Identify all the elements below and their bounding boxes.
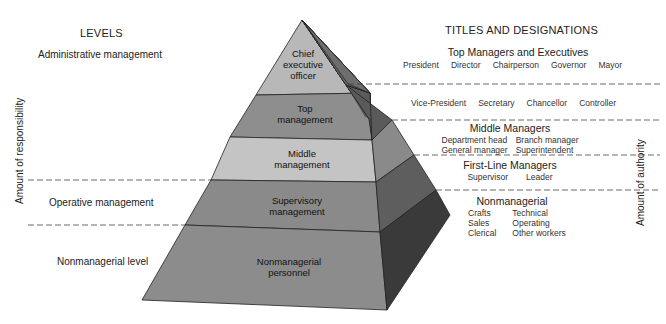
title-president: President bbox=[403, 60, 439, 70]
tier-label-supervisory-line2: management bbox=[252, 206, 342, 217]
group-nonmanagerial-name: Nonmanagerial bbox=[462, 195, 562, 207]
tier-label-middle-line1: Middle bbox=[262, 148, 342, 159]
title-operating: Operating bbox=[512, 218, 565, 228]
group-first-line-managers: First-Line Managers Supervisor Leader bbox=[460, 159, 560, 182]
tier-label-nonmanagerial: Nonmanagerial personnel bbox=[236, 256, 342, 278]
title-technical: Technical bbox=[512, 208, 565, 218]
title-leader: Leader bbox=[526, 172, 552, 182]
group-middle-managers-name: Middle Managers bbox=[440, 122, 580, 134]
title-vice-president: Vice-President bbox=[411, 98, 466, 108]
titles-header: TITLES AND DESIGNATIONS bbox=[445, 24, 598, 36]
tier-label-top-line1: Top bbox=[268, 103, 342, 114]
level-nonmanagerial: Nonmanagerial level bbox=[57, 256, 148, 267]
group-top-managers-name: Top Managers and Executives bbox=[403, 46, 633, 58]
group-nonmanagerial-titles: Crafts Technical Sales Operating Clerica… bbox=[462, 208, 562, 238]
title-clerical: Clerical bbox=[468, 228, 496, 238]
tier-label-ceo-line2: executive bbox=[278, 59, 328, 70]
tier-label-top: Top management bbox=[268, 103, 342, 125]
tier-label-middle-line2: management bbox=[262, 159, 342, 170]
tier-label-supervisory-line1: Supervisory bbox=[252, 195, 342, 206]
responsibility-axis-label: Amount of responsibility bbox=[14, 98, 25, 204]
title-superintendent: Superintendent bbox=[516, 145, 579, 155]
tier-label-top-line2: management bbox=[268, 114, 342, 125]
group-nonmanagerial: Nonmanagerial Crafts Technical Sales Ope… bbox=[462, 195, 562, 238]
level-operative: Operative management bbox=[49, 197, 154, 208]
title-supervisor: Supervisor bbox=[467, 172, 508, 182]
title-chairperson: Chairperson bbox=[493, 60, 539, 70]
title-other-workers: Other workers bbox=[512, 228, 565, 238]
title-mayor: Mayor bbox=[598, 60, 622, 70]
group-middle-managers: Middle Managers Department head Branch m… bbox=[440, 122, 580, 155]
title-crafts: Crafts bbox=[468, 208, 496, 218]
title-chancellor: Chancellor bbox=[527, 98, 568, 108]
group-middle-managers-titles: Department head Branch manager General m… bbox=[440, 135, 580, 155]
group-first-line-managers-name: First-Line Managers bbox=[460, 159, 560, 171]
title-branch-manager: Branch manager bbox=[516, 135, 579, 145]
levels-header: LEVELS bbox=[80, 27, 123, 39]
tier-label-nonmanagerial-line2: personnel bbox=[236, 267, 342, 278]
tier-label-supervisory: Supervisory management bbox=[252, 195, 342, 217]
title-controller: Controller bbox=[579, 98, 616, 108]
level-administrative: Administrative management bbox=[38, 49, 162, 60]
tier-label-middle: Middle management bbox=[262, 148, 342, 170]
title-governor: Governor bbox=[551, 60, 586, 70]
group-first-line-managers-titles: Supervisor Leader bbox=[460, 172, 560, 182]
group-top-managers-titles: President Director Chairperson Governor … bbox=[403, 60, 633, 70]
group-top-managers: Top Managers and Executives President Di… bbox=[403, 46, 633, 70]
tier-label-ceo-line3: officer bbox=[278, 70, 328, 81]
title-department-head: Department head bbox=[442, 135, 508, 145]
group-vice-titles: Vice-President Secretary Chancellor Cont… bbox=[411, 98, 616, 108]
title-secretary: Secretary bbox=[478, 98, 514, 108]
title-sales: Sales bbox=[468, 218, 496, 228]
tier-label-ceo-line1: Chief bbox=[278, 48, 328, 59]
title-general-manager: General manager bbox=[442, 145, 508, 155]
title-director: Director bbox=[451, 60, 481, 70]
authority-axis-label: Amount of authority bbox=[635, 139, 646, 226]
tier-label-nonmanagerial-line1: Nonmanagerial bbox=[236, 256, 342, 267]
tier-label-ceo: Chief executive officer bbox=[278, 48, 328, 81]
